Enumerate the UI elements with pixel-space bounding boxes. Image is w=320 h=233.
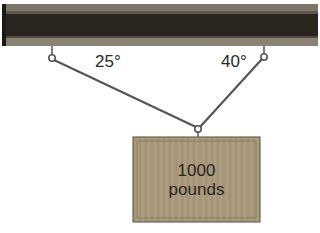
left-ring-icon [49, 55, 55, 61]
i-beam [2, 4, 318, 46]
right-ring-icon [261, 54, 267, 60]
left-angle-label: 25° [95, 52, 121, 72]
right-angle-label: 40° [221, 52, 247, 72]
junction-ring-icon [195, 126, 201, 132]
weight-unit: pounds [169, 180, 225, 199]
left-cable [54, 60, 196, 127]
weight-value: 1000 [178, 161, 216, 180]
weight-label: 1000 pounds [133, 137, 260, 222]
